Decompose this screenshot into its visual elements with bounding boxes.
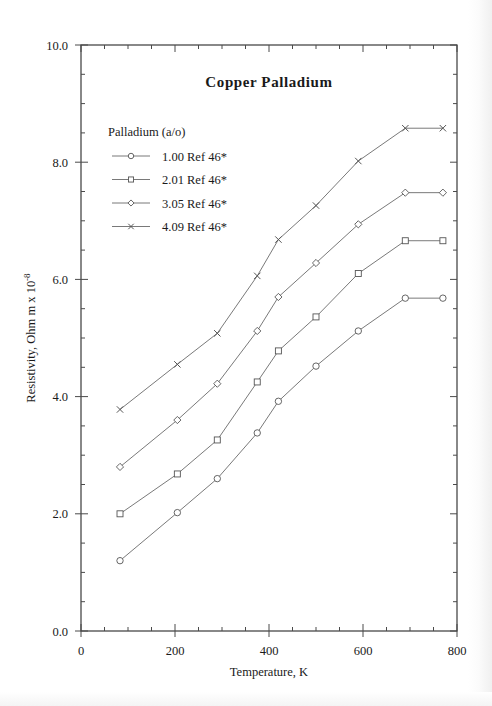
square-marker: [117, 511, 123, 517]
cross-marker: [117, 406, 123, 412]
y-axis-tick-labels: 0.02.04.06.08.010.0: [46, 39, 68, 639]
x-tick-label: 600: [354, 644, 373, 658]
x-tick-label: 200: [166, 644, 185, 658]
y-tick-label: 4.0: [52, 390, 68, 404]
diamond-marker: [254, 327, 261, 334]
y-axis-title: Resistivity, Ohm m x 10-8: [22, 273, 38, 403]
square-marker: [214, 437, 220, 443]
square-marker: [174, 471, 180, 477]
circle-marker: [440, 295, 446, 301]
square-marker: [402, 238, 408, 244]
legend-item-label: 3.05 Ref 46*: [162, 197, 227, 211]
data-series: [117, 125, 446, 413]
data-series: [117, 238, 446, 517]
circle-marker: [128, 153, 133, 158]
legend-item[interactable]: 2.01 Ref 46*: [112, 173, 227, 187]
legend-item[interactable]: 1.00 Ref 46*: [112, 150, 227, 164]
chart-legend: Palladium (a/o) 1.00 Ref 46*2.01 Ref 46*…: [108, 125, 227, 234]
data-series-layer: [116, 125, 446, 564]
circle-marker: [402, 295, 408, 301]
legend-item[interactable]: 3.05 Ref 46*: [112, 197, 227, 211]
x-axis-title: Temperature, K: [230, 665, 308, 679]
x-tick-label: 400: [260, 644, 279, 658]
y-tick-label: 2.0: [52, 507, 68, 521]
x-tick-label: 800: [448, 644, 467, 658]
circle-marker: [214, 475, 220, 481]
square-marker: [275, 348, 281, 354]
cross-marker: [214, 330, 220, 336]
cross-marker: [355, 158, 361, 164]
y-tick-label: 0.0: [52, 625, 68, 639]
chart-title: Copper Palladium: [205, 74, 332, 90]
legend-item-label: 1.00 Ref 46*: [162, 150, 227, 164]
x-tick-label: 0: [78, 644, 84, 658]
square-marker: [355, 271, 361, 277]
circle-marker: [355, 328, 361, 334]
legend-item[interactable]: 4.09 Ref 46*: [112, 220, 227, 234]
diamond-marker: [128, 200, 134, 206]
legend-title: Palladium (a/o): [108, 125, 185, 139]
y-tick-label: 8.0: [52, 156, 68, 170]
square-marker: [313, 314, 319, 320]
resistivity-vs-temperature-chart: 0200400600800 0.02.04.06.08.010.0 Copper…: [0, 0, 492, 706]
figure-container: 0200400600800 0.02.04.06.08.010.0 Copper…: [0, 0, 492, 706]
y-axis-title-group: Resistivity, Ohm m x 10-8: [22, 273, 38, 403]
diamond-marker: [402, 189, 409, 196]
cross-marker: [313, 202, 319, 208]
cross-marker: [174, 361, 180, 367]
circle-marker: [313, 363, 319, 369]
x-axis-tick-labels: 0200400600800: [78, 644, 467, 658]
square-marker: [128, 177, 133, 182]
cross-marker: [254, 273, 260, 279]
y-tick-label: 6.0: [52, 273, 68, 287]
square-marker: [440, 238, 446, 244]
square-marker: [254, 379, 260, 385]
y-tick-label: 10.0: [46, 39, 68, 53]
legend-item-label: 2.01 Ref 46*: [162, 173, 227, 187]
circle-marker: [254, 430, 260, 436]
circle-marker: [275, 398, 281, 404]
legend-item-label: 4.09 Ref 46*: [162, 220, 227, 234]
diamond-marker: [439, 189, 446, 196]
circle-marker: [174, 509, 180, 515]
cross-marker: [275, 236, 281, 242]
circle-marker: [117, 557, 123, 563]
